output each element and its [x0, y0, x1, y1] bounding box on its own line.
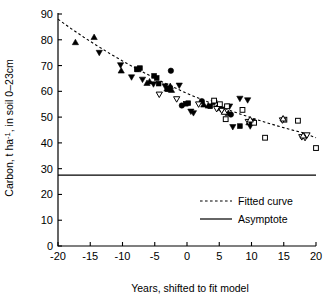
legend-label: Asymptote: [238, 213, 288, 225]
x-tick-label: 20: [310, 250, 322, 262]
y-tick-label: 90: [41, 8, 53, 20]
data-point: [263, 135, 268, 140]
x-tick-label: 5: [216, 250, 222, 262]
data-point: [156, 92, 162, 97]
y-tick-label: 20: [41, 188, 53, 200]
data-point: [230, 125, 236, 130]
y-axis-label: Carbon, t ha-1, in soil 0–23cm: [3, 59, 15, 197]
data-point: [208, 104, 213, 109]
fitted-curve-line: [58, 19, 316, 138]
y-tick-label: 80: [41, 34, 53, 46]
x-axis-ticks: -20-15-10-505101520: [50, 242, 322, 262]
series-filled-down-triangle: [96, 50, 255, 130]
data-point: [218, 102, 223, 107]
y-tick-label: 40: [41, 137, 53, 149]
scatter-chart: -20-15-10-505101520 0102030405060708090 …: [0, 0, 327, 299]
data-point: [296, 118, 301, 123]
data-point: [223, 117, 228, 122]
data-point: [117, 63, 123, 68]
data-point: [138, 66, 143, 71]
data-point: [168, 68, 173, 73]
plot-area: -20-15-10-505101520 0102030405060708090 …: [41, 8, 322, 262]
data-point: [128, 75, 134, 80]
data-point: [91, 34, 97, 39]
data-point: [174, 97, 180, 102]
x-tick-label: 15: [278, 250, 290, 262]
data-point: [228, 112, 233, 117]
axes: [58, 13, 316, 246]
data-point: [179, 103, 184, 108]
legend: Fitted curveAsymptote: [200, 195, 293, 225]
x-tick-label: -10: [115, 250, 131, 262]
data-point: [156, 81, 161, 86]
data-points: [72, 34, 318, 150]
y-tick-label: 50: [41, 111, 53, 123]
data-point: [96, 50, 102, 55]
data-point: [150, 82, 156, 87]
data-point: [237, 96, 243, 101]
series-open-square: [212, 98, 319, 150]
x-tick-label: -5: [150, 250, 160, 262]
data-point: [165, 87, 170, 92]
legend-label: Fitted curve: [238, 195, 293, 207]
x-tick-label: -15: [82, 250, 98, 262]
x-axis-label: Years, shifted to fit model: [131, 282, 249, 294]
data-point: [314, 146, 319, 151]
series-open-up-triangle: [221, 109, 306, 138]
y-tick-label: 30: [41, 163, 53, 175]
data-point: [245, 98, 251, 103]
data-point: [154, 76, 159, 81]
y-tick-label: 70: [41, 60, 53, 72]
data-point: [212, 98, 217, 103]
data-point: [176, 83, 182, 88]
y-tick-label: 10: [41, 214, 53, 226]
y-tick-label: 60: [41, 85, 53, 97]
x-tick-label: 0: [184, 250, 190, 262]
y-axis-ticks: 0102030405060708090: [41, 8, 62, 252]
chart-figure: -20-15-10-505101520 0102030405060708090 …: [0, 0, 327, 299]
data-point: [72, 39, 78, 44]
data-point: [240, 108, 245, 113]
y-tick-label: 0: [47, 240, 53, 252]
data-point: [139, 77, 145, 82]
data-point: [186, 101, 191, 106]
x-tick-label: 10: [245, 250, 257, 262]
data-point: [118, 68, 124, 73]
data-point: [237, 124, 242, 129]
